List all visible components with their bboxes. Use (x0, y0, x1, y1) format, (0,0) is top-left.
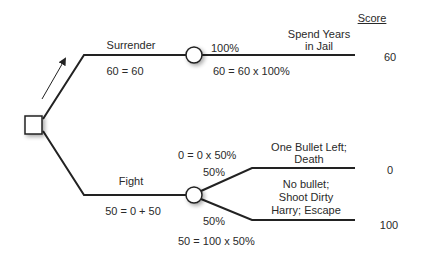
direction-arrow-icon (42, 59, 65, 99)
fight-branch-label: Fight (119, 175, 143, 188)
fight-ev-equation: 50 = 0 + 50 (105, 205, 161, 218)
escape-outcome-line2: Shoot Dirty (279, 191, 333, 204)
death-outcome-line2: Death (294, 153, 323, 166)
escape-outcome-line3: Harry; Escape (271, 204, 341, 217)
jail-outcome-line2: in Jail (305, 40, 333, 53)
surrender-ev-equation: 60 = 60 (106, 65, 143, 78)
escape-outcome-line1: No bullet; (283, 178, 329, 191)
jail-ev-equation: 60 = 60 x 100% (213, 65, 290, 78)
jail-probability: 100% (211, 42, 239, 55)
escape-ev-equation: 50 = 100 x 50% (178, 235, 255, 248)
escape-score: 100 (380, 219, 398, 232)
surrender-branch-label: Surrender (107, 39, 156, 52)
decision-node-square (25, 116, 42, 134)
death-score: 0 (387, 164, 393, 177)
jail-score: 60 (384, 51, 396, 64)
score-column-header: Score (358, 12, 387, 25)
escape-probability: 50% (203, 215, 225, 228)
fight-branch-line (43, 131, 186, 195)
surrender-chance-node-circle (186, 47, 202, 63)
death-ev-equation: 0 = 0 x 50% (178, 149, 236, 162)
fight-chance-node-circle (186, 187, 202, 203)
death-probability: 50% (203, 166, 225, 179)
